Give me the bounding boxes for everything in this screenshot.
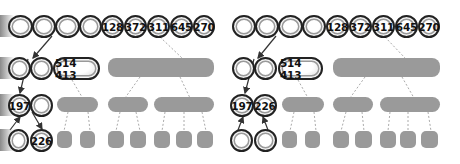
array-node: 226 (253, 94, 277, 117)
array-node (255, 15, 279, 38)
array-node: 270 (418, 15, 440, 38)
gray-block (380, 97, 440, 112)
gray-block (333, 97, 373, 112)
array-node (232, 15, 256, 38)
gray-cell (355, 131, 372, 148)
right-panel: 128 372 311 645 270 514 413 197 226 (0, 0, 230, 164)
array-node (302, 15, 326, 38)
array-node: 372 (349, 15, 372, 38)
array-node: 128 (326, 15, 349, 38)
array-node (230, 129, 253, 152)
array-node (254, 129, 277, 152)
gray-cell (380, 131, 396, 148)
gray-cell (333, 131, 349, 148)
array-node: 197 (230, 94, 254, 117)
gray-block (282, 97, 324, 112)
gray-block (333, 58, 440, 77)
gray-cell (305, 131, 320, 148)
array-node (232, 57, 255, 80)
gray-cell (400, 131, 416, 148)
gray-cell (421, 131, 438, 148)
array-node: 645 (395, 15, 418, 38)
array-node (278, 15, 303, 38)
gray-cell (282, 131, 297, 148)
array-node: 311 (372, 15, 395, 38)
array-node (254, 57, 277, 80)
pair-node: 514 413 (278, 57, 323, 80)
